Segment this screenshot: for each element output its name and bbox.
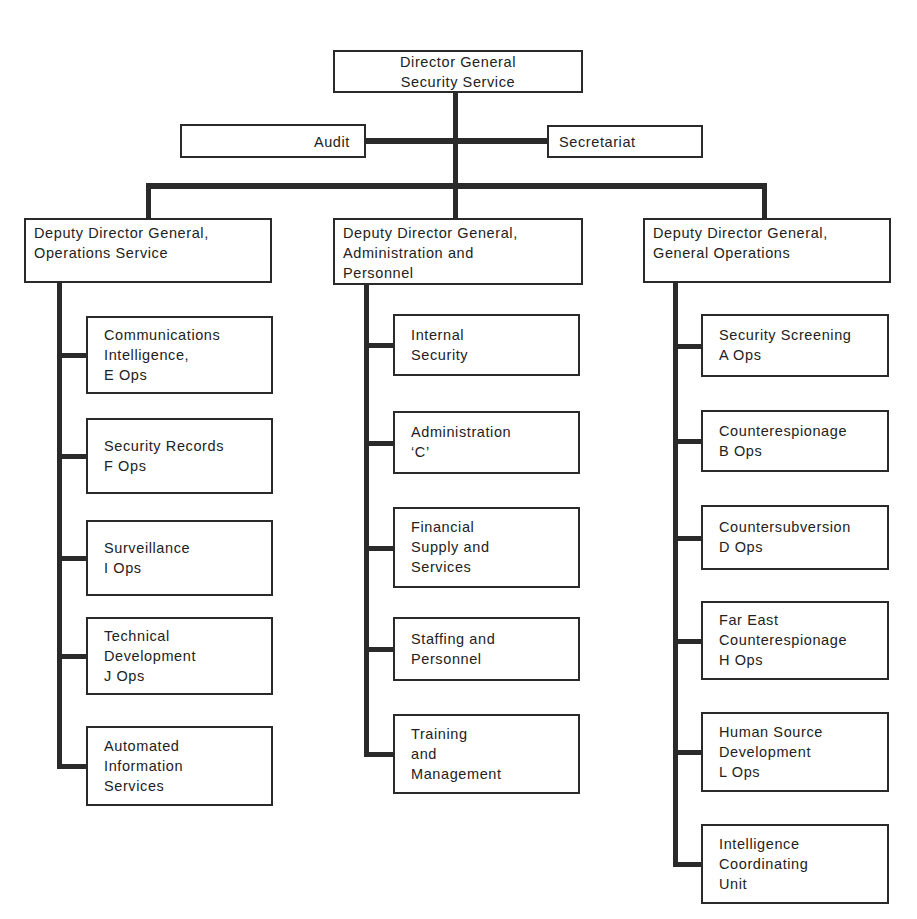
- unit-box: Surveillance I Ops: [86, 520, 273, 596]
- unit-box: Countersubversion D Ops: [701, 505, 889, 570]
- director-general-label: Director General Security Service: [335, 52, 581, 92]
- unit-box: Security Screening A Ops: [701, 314, 889, 377]
- deputy-director-label: Deputy Director General, Operations Serv…: [34, 223, 270, 263]
- unit-label: Surveillance I Ops: [104, 538, 271, 578]
- unit-connector: [57, 654, 87, 659]
- unit-connector: [364, 647, 394, 652]
- unit-box: Training and Management: [393, 714, 580, 794]
- unit-connector: [364, 752, 394, 757]
- unit-connector: [57, 764, 87, 769]
- deputy-drop-left: [146, 183, 151, 220]
- audit-label: Audit: [182, 132, 350, 152]
- unit-connector: [673, 439, 702, 444]
- staff-connector: [363, 138, 550, 144]
- unit-label: Training and Management: [411, 724, 578, 784]
- unit-connector: [364, 546, 394, 551]
- unit-label: Communications Intelligence, E Ops: [104, 325, 271, 385]
- unit-label: Technical Development J Ops: [104, 626, 271, 686]
- unit-label: Far East Counterespionage H Ops: [719, 610, 887, 670]
- unit-connector: [673, 536, 702, 541]
- unit-label: Counterespionage B Ops: [719, 421, 887, 461]
- deputy-director-box: Deputy Director General, Operations Serv…: [24, 218, 272, 283]
- unit-connector: [57, 454, 87, 459]
- unit-label: Automated Information Services: [104, 736, 271, 796]
- deputy-director-label: Deputy Director General, General Operati…: [653, 223, 889, 263]
- unit-box: Financial Supply and Services: [393, 507, 580, 588]
- unit-connector: [364, 343, 394, 348]
- unit-box: Human Source Development L Ops: [701, 712, 889, 792]
- unit-box: Administration ‘C’: [393, 411, 580, 474]
- unit-label: Financial Supply and Services: [411, 517, 578, 577]
- unit-box: Internal Security: [393, 314, 580, 376]
- unit-box: Far East Counterespionage H Ops: [701, 601, 889, 680]
- unit-label: Human Source Development L Ops: [719, 722, 887, 782]
- deputy-director-label: Deputy Director General, Administration …: [343, 223, 581, 283]
- unit-connector: [673, 344, 702, 349]
- unit-box: Security Records F Ops: [86, 418, 273, 494]
- unit-connector: [364, 441, 394, 446]
- branch-spine: [673, 281, 678, 867]
- audit-box: Audit: [180, 124, 366, 158]
- unit-box: Staffing and Personnel: [393, 617, 580, 681]
- unit-box: Counterespionage B Ops: [701, 410, 889, 472]
- deputy-director-box: Deputy Director General, Administration …: [333, 218, 583, 285]
- director-general-box: Director General Security Service: [333, 50, 583, 93]
- unit-connector: [57, 556, 87, 561]
- unit-connector: [673, 750, 702, 755]
- unit-label: Security Screening A Ops: [719, 325, 887, 365]
- secretariat-label: Secretariat: [559, 132, 701, 152]
- deputy-drop-right: [762, 183, 767, 220]
- unit-label: Internal Security: [411, 325, 578, 365]
- unit-label: Administration ‘C’: [411, 422, 578, 462]
- unit-connector: [673, 639, 702, 644]
- unit-box: Technical Development J Ops: [86, 617, 273, 695]
- secretariat-box: Secretariat: [547, 125, 703, 158]
- unit-label: Security Records F Ops: [104, 436, 271, 476]
- unit-connector: [57, 353, 87, 358]
- branch-spine: [364, 283, 369, 757]
- unit-label: Staffing and Personnel: [411, 629, 578, 669]
- unit-box: Automated Information Services: [86, 726, 273, 806]
- unit-label: Intelligence Coordinating Unit: [719, 834, 887, 894]
- unit-connector: [673, 862, 702, 867]
- unit-box: Communications Intelligence, E Ops: [86, 316, 273, 394]
- unit-label: Countersubversion D Ops: [719, 517, 887, 557]
- unit-box: Intelligence Coordinating Unit: [701, 824, 889, 904]
- deputy-drop-middle: [453, 183, 458, 220]
- deputy-director-box: Deputy Director General, General Operati…: [643, 218, 891, 283]
